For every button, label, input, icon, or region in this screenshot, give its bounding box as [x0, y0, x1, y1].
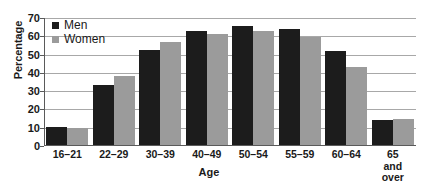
y-tickmark-60	[40, 36, 44, 37]
bar-women-7	[393, 119, 414, 146]
bar-men-0	[46, 127, 67, 146]
y-axis-tick-0: 0	[16, 141, 40, 152]
y-axis-tick-labels: 010203040506070	[16, 12, 40, 146]
y-axis-tick-50: 50	[16, 49, 40, 60]
y-axis-tick-20: 20	[16, 104, 40, 115]
y-tickmark-20	[40, 109, 44, 110]
y-tickmark-0	[40, 146, 44, 147]
x-axis-tick-2: 30–39	[146, 149, 175, 161]
y-axis-tick-70: 70	[16, 13, 40, 24]
bar-men-1	[93, 85, 114, 146]
y-axis-tick-60: 60	[16, 31, 40, 42]
legend-label-men: Men	[64, 19, 87, 31]
chart-legend: Men Women	[52, 18, 105, 46]
legend-item-men: Men	[52, 18, 105, 32]
y-axis-tick-40: 40	[16, 67, 40, 78]
bar-men-7	[372, 120, 393, 146]
bar-women-1	[114, 76, 135, 146]
bar-chart: Percentage 010203040506070 Men Women 16–…	[0, 0, 424, 192]
bar-men-5	[279, 29, 300, 146]
bar-women-4	[253, 31, 274, 146]
x-axis-title: Age	[44, 166, 374, 178]
y-tickmark-40	[40, 73, 44, 74]
x-axis-tick-6: 60–64	[332, 149, 361, 161]
y-tickmark-70	[40, 18, 44, 19]
legend-swatch-men-icon	[52, 22, 59, 29]
bar-men-2	[139, 50, 160, 146]
legend-label-women: Women	[64, 33, 105, 45]
legend-swatch-women-icon	[52, 36, 59, 43]
bar-men-3	[186, 31, 207, 146]
y-tickmark-50	[40, 55, 44, 56]
x-axis-tick-1: 22–29	[99, 149, 128, 161]
y-axis-tick-10: 10	[16, 122, 40, 133]
x-axis-tick-5: 55–59	[285, 149, 314, 161]
x-axis-tick-3: 40–49	[192, 149, 221, 161]
bar-women-0	[67, 128, 88, 146]
y-tickmark-30	[40, 91, 44, 92]
x-axis-tick-4: 50–54	[239, 149, 268, 161]
y-tickmark-10	[40, 128, 44, 129]
bar-women-2	[160, 42, 181, 146]
x-axis-tick-0: 16–21	[53, 149, 82, 161]
legend-item-women: Women	[52, 32, 105, 46]
bar-men-6	[325, 51, 346, 146]
x-axis-line	[44, 145, 416, 147]
bar-women-5	[300, 37, 321, 146]
bar-women-3	[207, 34, 228, 146]
bar-men-4	[232, 26, 253, 146]
bar-women-6	[346, 67, 367, 146]
y-axis-tick-30: 30	[16, 86, 40, 97]
x-axis-tick-7: 65 and over	[381, 149, 404, 184]
